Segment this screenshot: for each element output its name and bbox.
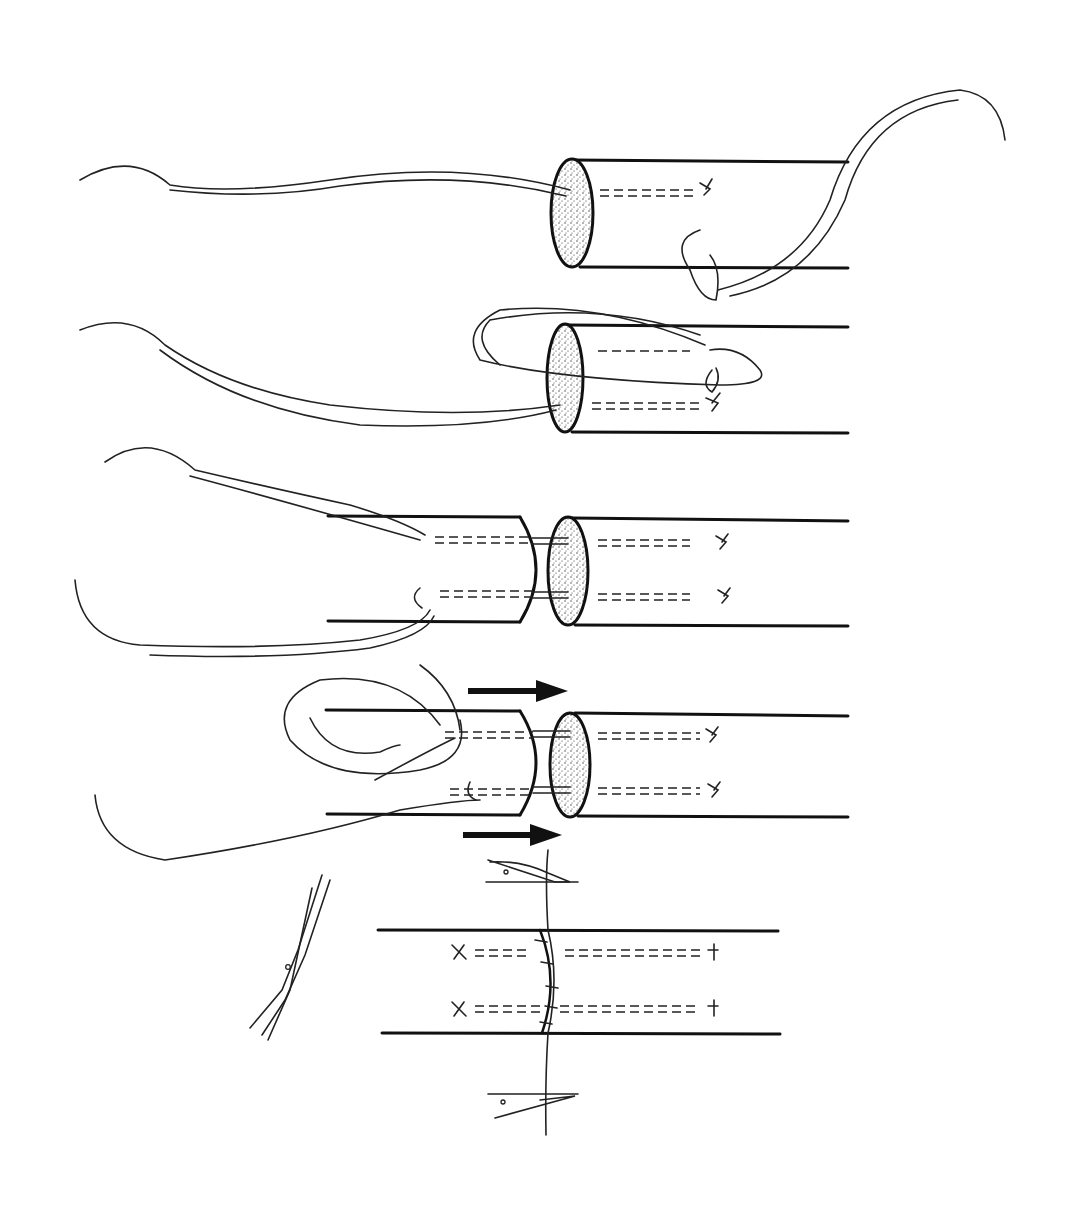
knot-icon <box>716 534 728 549</box>
panel-5 <box>250 850 780 1135</box>
panel-3 <box>75 448 848 657</box>
knot-icon <box>708 1000 718 1016</box>
knot-icon <box>718 588 730 603</box>
knot-icon <box>452 945 466 959</box>
surgical-illustration <box>0 0 1082 1217</box>
forceps-icon <box>488 1094 578 1118</box>
panel-4 <box>95 665 848 860</box>
arrow-right-icon <box>468 680 568 702</box>
knot-icon <box>708 944 718 960</box>
scissors-icon <box>250 875 330 1040</box>
arrow-right-icon <box>463 824 562 846</box>
knot-icon <box>706 393 720 411</box>
panel-1 <box>80 90 1005 300</box>
knot-icon <box>706 727 718 742</box>
forceps-icon <box>486 860 578 882</box>
knot-icon <box>452 1002 466 1016</box>
knot-icon <box>708 782 720 797</box>
knot-icon <box>700 179 712 195</box>
panel-2 <box>80 308 848 433</box>
